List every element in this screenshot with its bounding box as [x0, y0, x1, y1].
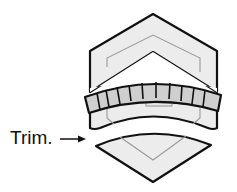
diagram-canvas: Trim.: [0, 0, 237, 192]
trim-label: Trim.: [10, 127, 53, 149]
trim-arrow-icon: [60, 136, 86, 143]
upper-chevron-body: [90, 14, 217, 92]
trimmed-piece: [96, 134, 211, 182]
diagram-svg: [0, 0, 237, 192]
